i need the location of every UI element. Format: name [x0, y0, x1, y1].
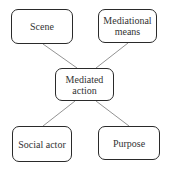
edge-social-actor	[43, 101, 75, 126]
node-label-line2: action	[72, 85, 96, 96]
node-label-line1: Mediated	[66, 74, 104, 85]
node-social-actor: Social actor	[12, 126, 72, 162]
node-label: Purpose	[113, 138, 145, 149]
edge-scene	[43, 44, 77, 68]
node-label: Social actor	[18, 139, 65, 150]
node-mediational-means: Mediational means	[98, 9, 157, 43]
edge-mediational-means	[96, 43, 128, 68]
node-purpose: Purpose	[98, 126, 160, 160]
node-label-line2: means	[115, 26, 141, 37]
edge-purpose	[96, 101, 129, 126]
node-mediated-action: Mediated action	[55, 68, 114, 101]
node-scene: Scene	[11, 9, 73, 44]
node-label: Scene	[30, 21, 54, 32]
node-label-line1: Mediational	[103, 15, 151, 26]
